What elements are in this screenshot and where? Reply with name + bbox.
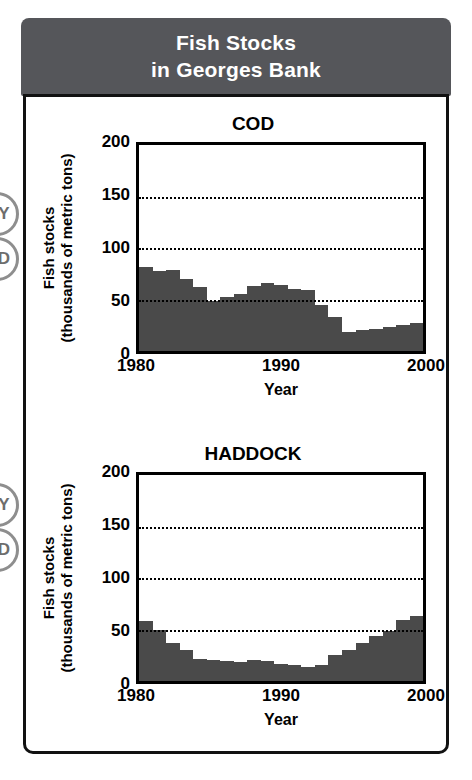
y-tick-label: 50 (111, 621, 130, 641)
gridline (139, 197, 423, 199)
bar (369, 329, 383, 351)
bar (328, 655, 342, 681)
bar (207, 660, 221, 681)
bar (261, 283, 275, 351)
x-tick-label: 2000 (407, 686, 445, 706)
x-axis-ticks-cod: 198019902000 (136, 354, 426, 378)
bar (220, 661, 234, 681)
edge-badge-label: Y (0, 495, 10, 514)
bar (274, 285, 288, 351)
bar (396, 325, 410, 351)
bar (274, 664, 288, 682)
bar (234, 294, 248, 351)
plot-area-cod (136, 142, 426, 354)
bar (234, 662, 248, 681)
bar (180, 279, 194, 351)
x-tick-label: 1990 (262, 356, 300, 376)
chart-body-cod: Fish stocks (thousands of metric tons) 0… (26, 142, 446, 354)
bar (342, 332, 356, 351)
edge-badge-label: D (0, 540, 10, 559)
bar (356, 643, 370, 681)
x-axis-label-haddock: Year (116, 711, 446, 729)
y-tick-label: 150 (102, 185, 130, 205)
y-axis-label-line-2: (thousands of metric tons) (58, 472, 76, 684)
edge-badge-label: D (0, 249, 10, 268)
x-axis-ticks-haddock: 198019902000 (136, 684, 426, 708)
bar (301, 667, 315, 681)
bar (410, 323, 424, 351)
gridline (139, 527, 423, 529)
edge-badge-4[interactable]: D (0, 528, 19, 572)
bar (220, 297, 234, 351)
bar (315, 305, 329, 351)
x-axis-label-cod: Year (116, 381, 446, 399)
gridline (139, 578, 423, 580)
x-tick-label: 1990 (262, 686, 300, 706)
y-tick-label: 50 (111, 291, 130, 311)
x-tick-label: 1980 (117, 356, 155, 376)
bar (328, 317, 342, 351)
bar (247, 660, 261, 681)
edge-badge-3[interactable]: Y (0, 483, 19, 527)
edge-badge-2[interactable]: D (0, 237, 19, 281)
bar (342, 650, 356, 681)
bar (139, 267, 153, 351)
bar (261, 661, 275, 681)
bar (207, 301, 221, 351)
edge-badge-label: Y (0, 204, 10, 223)
x-tick-label: 1980 (117, 686, 155, 706)
bar (383, 631, 397, 681)
header-title-line-1: Fish Stocks (176, 30, 296, 57)
bar (247, 286, 261, 351)
figure-panel: COD Fish stocks (thousands of metric ton… (23, 94, 449, 754)
y-tick-label: 100 (102, 568, 130, 588)
bar (153, 271, 167, 351)
y-tick-label: 100 (102, 238, 130, 258)
chart-cod: COD Fish stocks (thousands of metric ton… (26, 113, 446, 399)
edge-badge-1[interactable]: Y (0, 192, 19, 236)
page-header: Fish Stocks in Georges Bank (21, 18, 451, 96)
bar (288, 289, 302, 351)
bar (410, 616, 424, 681)
bar (166, 643, 180, 681)
bar (153, 630, 167, 682)
header-title-line-2: in Georges Bank (151, 57, 321, 84)
y-tick-label: 150 (102, 515, 130, 535)
bar (288, 665, 302, 681)
gridline (139, 630, 423, 632)
bar (383, 327, 397, 351)
bar (180, 650, 194, 681)
plot-area-haddock (136, 472, 426, 684)
y-tick-label: 200 (102, 462, 130, 482)
bar (356, 330, 370, 351)
bar (193, 287, 207, 351)
y-axis-ticks-haddock: 050100150200 (78, 472, 130, 684)
bar (193, 659, 207, 681)
y-axis-label-line-2: (thousands of metric tons) (58, 142, 76, 354)
y-axis-ticks-cod: 050100150200 (78, 142, 130, 354)
bar (315, 665, 329, 681)
x-tick-label: 2000 (407, 356, 445, 376)
y-tick-label: 200 (102, 132, 130, 152)
bar (369, 636, 383, 681)
chart-body-haddock: Fish stocks (thousands of metric tons) 0… (26, 472, 446, 684)
gridline (139, 248, 423, 250)
y-axis-label-line-1: Fish stocks (40, 207, 57, 290)
y-axis-label-line-1: Fish stocks (40, 537, 57, 620)
bar (166, 270, 180, 351)
chart-haddock: HADDOCK Fish stocks (thousands of metric… (26, 443, 446, 729)
gridline (139, 300, 423, 302)
